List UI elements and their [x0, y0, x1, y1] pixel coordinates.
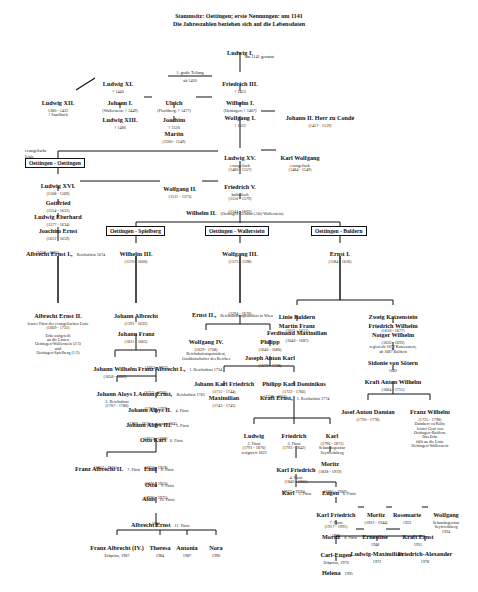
person-johann-2: Johann II. Herr zu Condé (1457 - 1519): [286, 107, 354, 128]
person-maximilian: Maximilian (1743 - 1745): [209, 387, 240, 408]
chart-title: Stammsitz: Oettingen; erste Nennungen: u…: [0, 13, 478, 28]
person-johann-wilhelm: Johann Wilhelm (1658 - 1683): [93, 358, 137, 379]
branch-oettingen-spielberg: Oettingen - Spielberg: [106, 226, 165, 236]
branch-oettingen-oettingen: Oettingen - Oettingen: [25, 158, 85, 168]
ernst-2-dates: (1594 - 1670): [228, 311, 251, 316]
person-wolfgang-sekundogenitur: Wolfgang Sekundogenitur Seyfriedsberg 19…: [433, 504, 460, 534]
person-friedrich-fuerst-3: Friedrich 3. Fürst (1793 - 1842): [281, 425, 306, 451]
title-line-2: Die Jahreszahlen beziehen sich auf die L…: [0, 21, 478, 29]
moritz-8-dates: 1946: [332, 533, 340, 538]
person-albrecht-ernst-2: Albrecht Ernst II. letzter Fürst der eva…: [27, 305, 88, 356]
anton-ernst-dates: (1712 - 1768): [144, 390, 167, 395]
branch-oettingen-wallerstein: Oettingen - Wallerstein: [205, 226, 269, 236]
karl-5-dates: (1877 - 1930): [282, 489, 305, 494]
person-franz-wilhelm: Franz Wilhelm (1725 - 1798) Domherr zu K…: [410, 401, 450, 449]
kraft-ernst-1-dates: (1748 - 1802): [264, 394, 287, 399]
person-rosemarie: Rosemarie 1923: [393, 504, 421, 525]
title-line-1: Stammsitz: Oettingen; erste Nennungen: u…: [0, 13, 478, 21]
person-martin: Martin (1500 - 1549): [162, 123, 185, 144]
johann-aloys-3-dates: (1788 - 1855) resigniert 1845: [128, 421, 177, 426]
person-wilhelm-3: Wilhelm III. (1570 - 1600): [120, 243, 153, 264]
otto-karl-dates: (1815 - 1882): [144, 436, 167, 441]
albrecht-ernst-1-dates: (1642 - 1683): [36, 250, 59, 255]
ludwig-1-note: um 1141 genannt: [245, 54, 274, 59]
person-joachim-ernst: Joachim Ernst (1612 - 1659): [39, 220, 78, 241]
person-ernst-1: Ernst I. (1584 - 1626): [328, 243, 351, 264]
person-kraft-anton-wilhelm: Kraft Anton Wilhelm (1684 - 1751): [365, 371, 422, 392]
person-ludwig-maximilian: Ludwig-Maximilian 1972: [351, 543, 404, 564]
person-karl-sekundogenitur: Karl (1796 - 1871) Sekundogenitur Seyfri…: [319, 425, 346, 455]
person-moritz-2: Moritz (1922 - 1944): [364, 504, 387, 525]
person-ferdinand-maximilian: Ferdinand Maximilian (1640 - 1687): [267, 322, 327, 343]
person-joseph-anton-karl: Joseph Anton Karl (1679 - 1738): [245, 347, 295, 368]
person-johann-franz: Johann Franz (1631 - 1665): [118, 323, 155, 344]
person-theresa: Theresa 1984: [149, 537, 170, 558]
person-ludwig-fuerst-2: Ludwig 2. Fürst (1791 - 1870) resigniert…: [241, 425, 266, 455]
person-nora: Nora 1990: [209, 537, 222, 558]
eugen-dates: (1885 - 1969): [324, 489, 347, 494]
marriage-symbol: ∞: [392, 346, 395, 351]
alois-dates: (1920 - 1975): [144, 495, 167, 500]
person-friedrich-5: Friedrich V. katholisch (1516 - 1579): [224, 176, 256, 202]
branch-oettingen-baldern: Oettingen - Baldern: [311, 226, 367, 236]
johann-aloys-2-dates: (1758 - 1797): [144, 406, 167, 411]
person-wolfgang-2: Wolfgang II. (1511 - 1573): [163, 178, 196, 199]
franz-albrecht-1-dates: (1663 - 1737): [145, 365, 168, 370]
person-helena: Helena 1995: [322, 562, 353, 579]
person-ludwig-13: Ludwig XIII. † 1486: [102, 109, 137, 130]
albrecht-ernst-11-dates: 1951: [152, 521, 160, 526]
teilung-date: ab 1410: [183, 78, 196, 83]
person-ludwig-15: Ludwig XV. evangelisch (1486 - 1557): [224, 147, 256, 173]
wilhelm-2-dates: (1544 - 1602): [228, 209, 251, 214]
teilung-label: 1. große Teilung: [176, 70, 203, 75]
emil-dates: (1850 - 1919): [144, 465, 167, 470]
evangelische-label: evangelische: [25, 148, 47, 153]
person-ludwig-12: Ludwig XII. 1380 - 1422 † Saarlbach: [42, 92, 75, 118]
person-wolfgang-3: Wolfgang III. (1573 - 1598): [222, 243, 258, 264]
person-franz-albrecht-4: Franz Albrecht (IV.) Erbprinz, 1987: [90, 537, 144, 558]
person-karl-wolfgang: Karl Wolfgang evangelisch (1484 - 1549): [280, 147, 319, 173]
franz-albrecht-2-dates: (1847 - 1916): [94, 465, 117, 470]
person-antonia: Antonia 1987: [176, 537, 197, 558]
person-moritz-1: Moritz (1838 - 1919): [318, 453, 341, 474]
person-wolfgang-4: Wolfgang IV. (1629 - 1708) Reichshofrats…: [182, 331, 230, 361]
otto-dates: (1870 - 1952): [144, 481, 167, 486]
person-wolfgang-1: Wolfgang I. † 1522: [225, 107, 256, 128]
person-josef-anton-damian: Josef Anton Damian (1720 - 1778): [341, 401, 395, 422]
person-friedrich-alexander: Friedrich-Alexander 1978: [398, 543, 453, 564]
